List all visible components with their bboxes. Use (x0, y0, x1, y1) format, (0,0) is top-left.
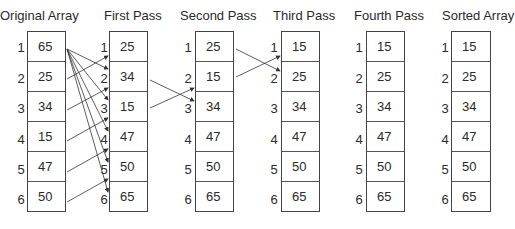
arrow-line (236, 56, 280, 77)
arrow-line (67, 56, 108, 79)
arrow-line (67, 49, 108, 100)
arrow-line (67, 149, 108, 172)
swap-arrows (0, 0, 515, 229)
arrow-line (67, 88, 108, 110)
arrow-line (67, 179, 108, 202)
arrow-line (67, 49, 108, 192)
arrow-line (67, 49, 108, 131)
arrow-line (236, 49, 280, 71)
